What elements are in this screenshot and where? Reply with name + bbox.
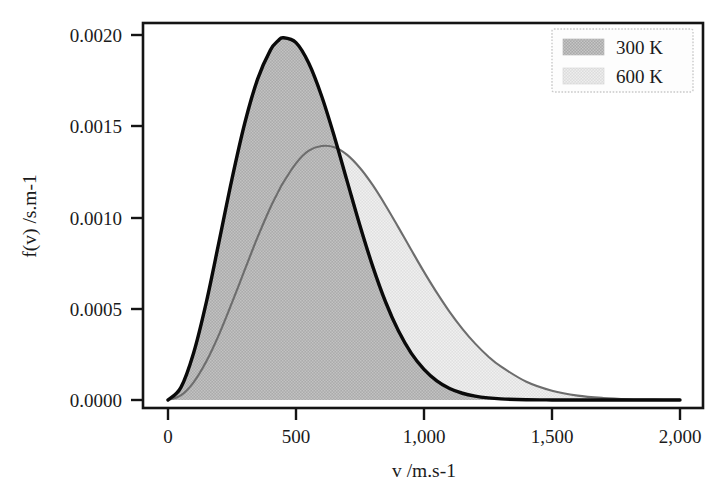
y-tick-label-00020: 0.0020 bbox=[70, 25, 122, 46]
x-tick-label-500: 500 bbox=[282, 426, 311, 447]
legend: 300 K 600 K bbox=[552, 29, 693, 92]
x-axis-tick-labels: 0 500 1,000 1,500 2,000 bbox=[163, 426, 701, 447]
x-axis-ticks bbox=[168, 408, 680, 420]
y-tick-label-00015: 0.0015 bbox=[70, 116, 122, 137]
y-tick-label-00000: 0.0000 bbox=[70, 390, 122, 411]
scan-artifact-text bbox=[0, 479, 724, 493]
x-tick-label-0: 0 bbox=[163, 426, 173, 447]
x-tick-label-1500: 1,500 bbox=[531, 426, 574, 447]
legend-swatch-300k bbox=[563, 39, 604, 55]
x-axis-title: v /m.s-1 bbox=[392, 460, 456, 481]
y-axis-title: f(v) /s.m-1 bbox=[19, 174, 41, 257]
y-axis-tick-labels: 0.0000 0.0005 0.0010 0.0015 0.0020 bbox=[70, 25, 122, 411]
legend-label-600k: 600 K bbox=[616, 66, 663, 87]
figure-container: 0 500 1,000 1,500 2,000 0.0000 0.0005 0.… bbox=[0, 0, 724, 493]
legend-label-300k: 300 K bbox=[616, 37, 663, 58]
y-tick-label-00005: 0.0005 bbox=[70, 299, 122, 320]
x-tick-label-2000: 2,000 bbox=[659, 426, 702, 447]
x-tick-label-1000: 1,000 bbox=[403, 426, 446, 447]
legend-swatch-600k bbox=[563, 68, 604, 84]
maxwell-boltzmann-chart: 0 500 1,000 1,500 2,000 0.0000 0.0005 0.… bbox=[0, 0, 724, 493]
y-tick-label-00010: 0.0010 bbox=[70, 208, 122, 229]
y-axis-ticks bbox=[131, 35, 143, 400]
